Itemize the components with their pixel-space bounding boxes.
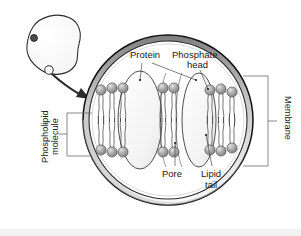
zoom-arrow-icon	[52, 74, 90, 99]
label-phosphate-head-line2: head	[187, 59, 208, 70]
label-pore: Pore	[162, 168, 182, 179]
label-lipid-tail-line2: tail	[205, 179, 217, 190]
cell-membrane-diagram: Protein Phosphate head Phospholipid mole…	[0, 0, 301, 236]
bottom-band	[0, 229, 301, 236]
magnified-membrane-view	[83, 35, 253, 205]
label-phospholipid-line1: Phospholipid	[40, 110, 50, 163]
label-lipid-tail-line1: Lipid	[201, 168, 221, 179]
pore-marker	[174, 142, 176, 144]
magnification-point-icon	[45, 66, 53, 74]
nucleus-icon	[31, 35, 38, 42]
inset-cell	[27, 15, 80, 74]
diagram-canvas: Protein Phosphate head Phospholipid mole…	[0, 0, 301, 236]
label-membrane: Membrane	[283, 96, 293, 140]
label-phospholipid-line2: molecule	[50, 118, 60, 155]
label-protein: Protein	[130, 49, 160, 60]
